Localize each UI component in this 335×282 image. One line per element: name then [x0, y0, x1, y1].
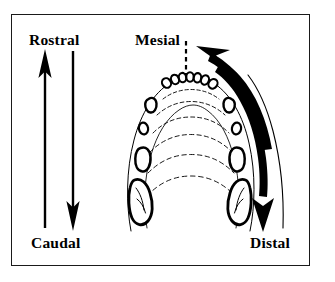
label-mesial: Mesial: [135, 32, 180, 48]
figure-root: Rostral Caudal Mesial Distal: [0, 0, 335, 282]
rostral-arrow: [38, 49, 51, 228]
incisor-teeth: [160, 72, 219, 90]
label-rostral: Rostral: [29, 32, 79, 48]
label-caudal: Caudal: [31, 235, 80, 251]
caudal-arrow: [66, 51, 79, 231]
molar-teeth: [129, 179, 251, 224]
label-distal: Distal: [250, 235, 290, 251]
first-premolar-teeth: [138, 122, 242, 135]
